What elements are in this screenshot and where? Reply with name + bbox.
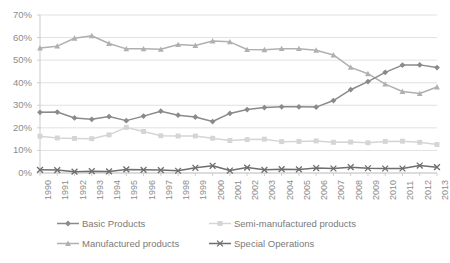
- x-axis-tick-label: 2005: [303, 180, 312, 200]
- x-axis-tick-label: 2003: [268, 180, 277, 200]
- axis-lines: [37, 15, 437, 176]
- x-axis-tick-label: 2013: [441, 180, 450, 200]
- legend-marker-square-icon: [208, 218, 232, 229]
- legend-item-special-operations[interactable]: Special Operations: [208, 233, 396, 253]
- legend-label: Manufactured products: [82, 238, 179, 249]
- legend-marker-diamond-icon: [56, 218, 80, 229]
- x-axis-tick-label: 1998: [182, 180, 191, 200]
- y-axis-tick-label: 20%: [2, 123, 32, 133]
- x-axis-tick-label: 2002: [251, 180, 260, 200]
- legend-label: Special Operations: [234, 238, 314, 249]
- x-axis-tick-label: 1999: [199, 180, 208, 200]
- y-axis-tick-label: 10%: [2, 145, 32, 155]
- x-axis-tick-label: 2012: [424, 180, 433, 200]
- y-axis-tick-label: 40%: [2, 78, 32, 88]
- x-axis-tick-label: 2010: [389, 180, 398, 200]
- x-axis-tick-label: 2001: [234, 180, 243, 200]
- legend-item-manufactured-products[interactable]: Manufactured products: [56, 233, 208, 253]
- x-axis-tick-label: 1991: [61, 180, 70, 200]
- x-axis-tick-label: 2008: [355, 180, 364, 200]
- legend-item-basic-products[interactable]: Basic Products: [56, 213, 208, 233]
- x-axis-tick-label: 2011: [406, 181, 415, 200]
- legend-marker-cross-icon: [208, 238, 232, 249]
- legend-marker-triangle-icon: [56, 238, 80, 249]
- x-axis-tick-label: 1997: [165, 180, 174, 200]
- x-axis-tick-label: 2006: [320, 180, 329, 200]
- x-axis-tick-label: 1994: [113, 180, 122, 200]
- x-axis-tick-label: 2000: [217, 180, 226, 200]
- x-axis-tick-label: 1996: [148, 180, 157, 200]
- legend-label: Semi-manufactured products: [234, 218, 356, 229]
- x-axis-tick-label: 2007: [337, 180, 346, 200]
- series-basic-products: [37, 62, 440, 124]
- x-axis-tick-label: 1990: [44, 180, 53, 200]
- chart-legend: Basic Products Semi-manufactured product…: [56, 213, 396, 253]
- y-axis-tick-label: 0%: [2, 168, 32, 178]
- x-axis-tick-label: 1995: [130, 180, 139, 200]
- y-axis-tick-label: 60%: [2, 33, 32, 43]
- y-axis-tick-label: 50%: [2, 55, 32, 65]
- x-axis-tick-label: 1992: [79, 180, 88, 200]
- x-axis-tick-label: 2009: [372, 180, 381, 200]
- legend-item-semi-manufactured-products[interactable]: Semi-manufactured products: [208, 213, 396, 233]
- y-axis-tick-label: 70%: [2, 10, 32, 20]
- series-manufactured-products: [37, 33, 440, 96]
- x-axis-tick-label: 1993: [96, 180, 105, 200]
- y-axis-tick-label: 30%: [2, 100, 32, 110]
- legend-label: Basic Products: [82, 218, 145, 229]
- x-axis-tick-label: 2004: [286, 180, 295, 200]
